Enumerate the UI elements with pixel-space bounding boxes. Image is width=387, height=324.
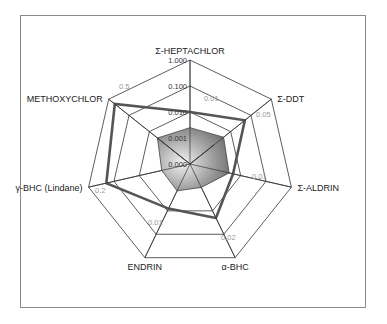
axis-label: ENDRIN <box>128 262 163 272</box>
radar-chart: 0.0000.0010.0100.1001.000Σ-HEPTACHLORΣ-D… <box>0 0 387 324</box>
axis-label: α-BHC <box>222 262 250 272</box>
ring-tick-label: 0.100 <box>168 82 187 91</box>
axis-annotation: 0.5 <box>119 82 129 91</box>
axis-label: Σ-DDT <box>277 94 305 104</box>
axis-label: METHOXYCHLOR <box>27 94 104 104</box>
ring-tick-label: 0.000 <box>168 160 187 169</box>
axis-annotation: 0.2 <box>95 186 105 195</box>
axis-label: Σ-HEPTACHLOR <box>155 46 225 56</box>
ring-tick-label: 0.010 <box>168 108 187 117</box>
axis-label: γ-BHC (Lindane) <box>16 183 83 193</box>
ring-tick-label: 0.001 <box>168 134 187 143</box>
axis-annotation: 0.01 <box>204 94 219 103</box>
axis-annotation: 0.05 <box>256 110 271 119</box>
axis-annotation: 0.01 <box>252 172 267 181</box>
axis-annotation: 0.02 <box>221 233 236 242</box>
ring-tick-label: 1.000 <box>168 56 187 65</box>
axis-annotation: 0.01 <box>148 218 163 227</box>
axis-label: Σ-ALDRIN <box>297 183 339 193</box>
